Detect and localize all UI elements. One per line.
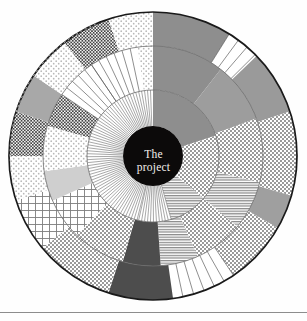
radial-project-wheel[interactable]: [0, 0, 307, 321]
bottom-rule: [0, 312, 307, 313]
wheel-sector[interactable]: [258, 112, 297, 196]
center-hub[interactable]: [123, 126, 183, 186]
wheel-sector[interactable]: [109, 261, 174, 300]
figure-page: The project: [0, 0, 307, 321]
